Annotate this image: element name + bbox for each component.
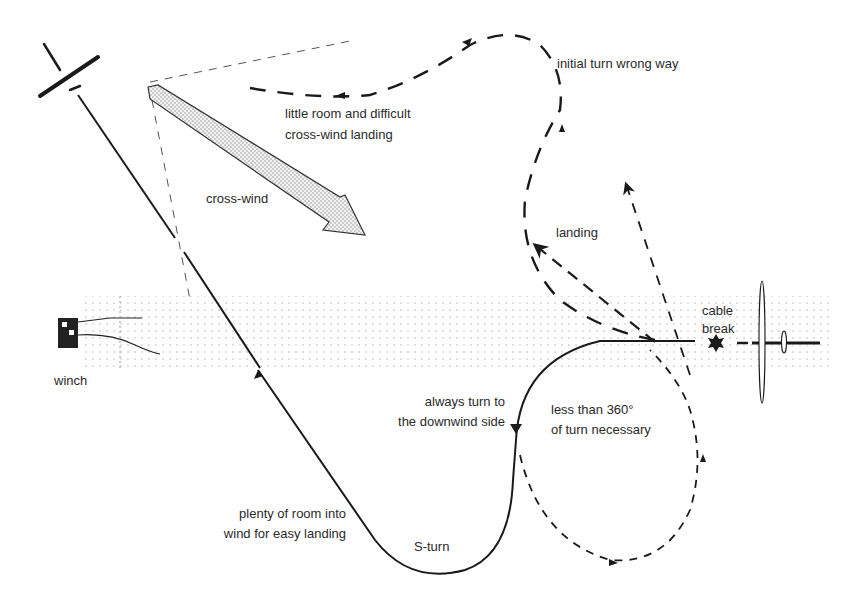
label-initial-turn: initial turn wrong way [557, 55, 678, 72]
arrow-head-icon [335, 92, 345, 99]
label-always-turn-2: the downwind side [370, 413, 505, 430]
label-winch: winch [54, 372, 87, 389]
label-plenty-1: plenty of room into [180, 505, 346, 522]
glider-icon [40, 44, 98, 96]
label-landing: landing [556, 224, 598, 241]
label-cable-2: break [702, 320, 735, 337]
label-cable-1: cable [702, 302, 733, 319]
circuit-path [520, 350, 698, 560]
sight-line [150, 40, 355, 82]
label-less-than-2: of turn necessary [551, 421, 651, 438]
label-plenty-2: wind for easy landing [180, 525, 346, 542]
label-cross-wind: cross-wind [206, 190, 268, 207]
arrow-head-icon [700, 454, 706, 462]
turn-arrow-icon [510, 424, 522, 434]
sight-line-2 [152, 100, 190, 300]
arrow-head-icon [559, 124, 565, 132]
label-little-room-1: little room and difficult [285, 105, 411, 122]
label-s-turn: S-turn [414, 538, 449, 555]
label-always-turn-1: always turn to [370, 393, 505, 410]
climb-arrow-icon [254, 370, 263, 379]
label-less-than-1: less than 360° [551, 401, 634, 418]
label-little-room-2: cross-wind landing [285, 126, 393, 143]
launch-path [78, 95, 175, 238]
